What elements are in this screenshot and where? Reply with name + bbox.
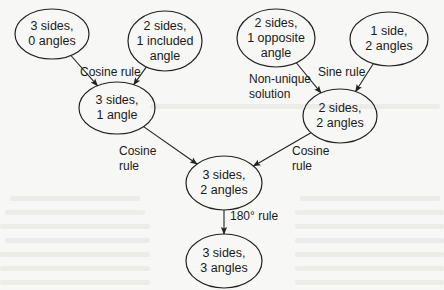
edge-label-cosine-rule-right: Cosine rule bbox=[292, 144, 329, 173]
node-2-sides-1-opposite-angle: 2 sides, 1 opposite angle bbox=[247, 16, 305, 61]
node-2-sides-1-included-angle: 2 sides, 1 included angle bbox=[137, 19, 194, 64]
edge-label-cosine-rule-left: Cosine rule bbox=[119, 144, 156, 173]
node-2-sides-2-angles: 2 sides, 2 angles bbox=[316, 101, 363, 131]
edge-label-cosine-rule-top: Cosine rule bbox=[80, 65, 141, 80]
node-3-sides-3-angles: 3 sides, 3 angles bbox=[200, 246, 247, 276]
node-3-sides-2-angles: 3 sides, 2 angles bbox=[200, 168, 247, 198]
node-3-sides-1-angle: 3 sides, 1 angle bbox=[95, 93, 138, 123]
edge-label-non-unique-solution: Non-unique solution bbox=[249, 72, 311, 101]
edge-label-180-rule: 180° rule bbox=[230, 209, 278, 224]
edge-label-sine-rule: Sine rule bbox=[318, 65, 365, 80]
node-1-side-2-angles: 1 side, 2 angles bbox=[365, 24, 412, 54]
diagram-canvas: 3 sides, 0 angles 2 sides, 1 included an… bbox=[0, 0, 444, 290]
node-3-sides-0-angles: 3 sides, 0 angles bbox=[28, 19, 75, 49]
